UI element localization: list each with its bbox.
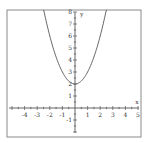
x-tick-label: 5 bbox=[136, 111, 140, 118]
x-tick-label: 2 bbox=[98, 111, 102, 118]
y-tick-label: -1 bbox=[66, 116, 72, 123]
y-axis-label: y bbox=[79, 10, 84, 18]
x-tick-label: -1 bbox=[59, 111, 65, 118]
x-tick-label: 4 bbox=[123, 111, 127, 118]
y-tick-label: 7 bbox=[68, 20, 72, 27]
x-tick-label: 1 bbox=[86, 111, 90, 118]
y-tick-label: 3 bbox=[68, 68, 72, 75]
function-graph: -4-3-2-112345-112345678 x y bbox=[0, 0, 148, 143]
y-tick-label: 8 bbox=[68, 8, 72, 15]
x-tick-label: -4 bbox=[22, 111, 28, 118]
x-tick-label: -2 bbox=[47, 111, 53, 118]
y-tick-label: 1 bbox=[68, 92, 72, 99]
x-tick-label: 3 bbox=[111, 111, 115, 118]
y-tick-label: 4 bbox=[68, 56, 72, 63]
y-tick-label: 6 bbox=[68, 32, 72, 39]
y-tick-label: 5 bbox=[68, 44, 72, 51]
x-tick-label: -3 bbox=[34, 111, 40, 118]
